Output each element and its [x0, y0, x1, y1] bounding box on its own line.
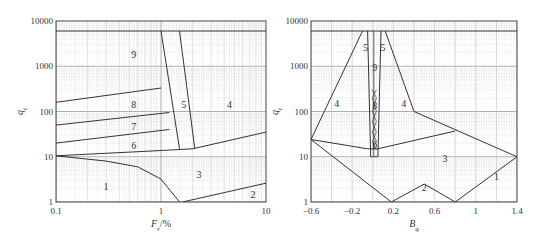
grid-lines	[56, 21, 266, 202]
y-tick-label: 100	[40, 107, 54, 117]
x-tick-label: −0.2	[344, 206, 360, 216]
region-label: 2	[422, 182, 427, 193]
region-label: 6	[372, 139, 377, 150]
x-axis-label: Fr/%	[150, 218, 171, 233]
region-label: 1	[494, 171, 499, 182]
left-chart-panel: 1234567891101001000100000.1110Fr/%qt	[14, 16, 271, 233]
region-label: 3	[196, 169, 201, 180]
region-label: 7	[131, 121, 136, 132]
region-label: 9	[131, 49, 136, 60]
x-axis-label: Bq	[409, 218, 419, 233]
region-label: 5	[363, 42, 368, 53]
region-label: 5	[181, 99, 186, 110]
y-axis-label: qt	[14, 107, 29, 115]
region-label: 1	[104, 181, 109, 192]
region-label: 8	[372, 100, 377, 111]
boundary-line-outer-right	[385, 31, 517, 157]
right-chart-panel: 1234455986110100100010000−0.6−0.20.20.61…	[269, 16, 523, 233]
region-label: 9	[372, 62, 377, 73]
x-tick-label: 1.4	[511, 206, 523, 216]
y-tick-label: 10000	[31, 16, 54, 26]
region-label: 2	[250, 189, 255, 200]
region-label: 6	[131, 140, 136, 151]
region-label: 4	[401, 98, 406, 109]
y-tick-label: 10	[299, 152, 309, 162]
x-tick-label: 0.6	[429, 206, 441, 216]
y-tick-label: 1000	[35, 61, 54, 71]
region-label: 4	[227, 99, 232, 110]
x-tick-label: 1	[159, 206, 164, 216]
y-tick-label: 10	[44, 152, 54, 162]
region-label: 5	[381, 42, 386, 53]
region-label: 8	[131, 99, 136, 110]
y-tick-label: 1000	[290, 61, 309, 71]
x-tick-label: 1	[474, 206, 479, 216]
boundary-line-b7-8	[56, 113, 169, 126]
chart-figure: 1234567891101001000100000.1110Fr/%qt 123…	[0, 0, 540, 248]
zone-column-detail	[371, 31, 378, 157]
y-tick-label: 100	[295, 107, 309, 117]
x-tick-label: −0.6	[303, 206, 320, 216]
y-tick-label: 10000	[286, 16, 309, 26]
x-tick-label: 0.1	[50, 206, 61, 216]
boundary-line-b6-7	[56, 130, 169, 144]
region-label: 3	[442, 153, 447, 164]
y-axis-label: qt	[269, 107, 284, 115]
region-label: 4	[334, 98, 339, 109]
x-tick-label: 10	[262, 206, 272, 216]
x-tick-label: 0.2	[388, 206, 399, 216]
